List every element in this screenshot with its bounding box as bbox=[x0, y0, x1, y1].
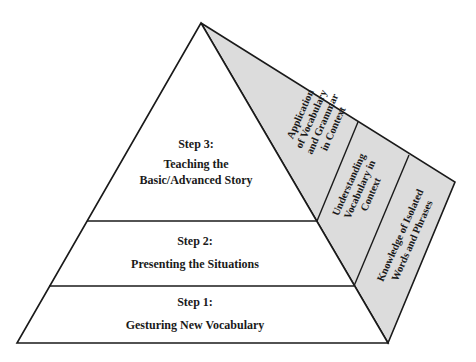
step-2-title: Step 2: bbox=[177, 234, 213, 248]
step-2-line-1: Presenting the Situations bbox=[131, 257, 259, 271]
step-1-title: Step 1: bbox=[177, 295, 213, 309]
step-1-line-1: Gesturing New Vocabulary bbox=[126, 318, 265, 332]
step-3-line-2: Basic/Advanced Story bbox=[139, 173, 252, 187]
step-3-line-1: Teaching the bbox=[163, 157, 229, 171]
step-3-title: Step 3: bbox=[178, 137, 214, 151]
pyramid-diagram: Step 3: Teaching the Basic/Advanced Stor… bbox=[0, 0, 476, 362]
